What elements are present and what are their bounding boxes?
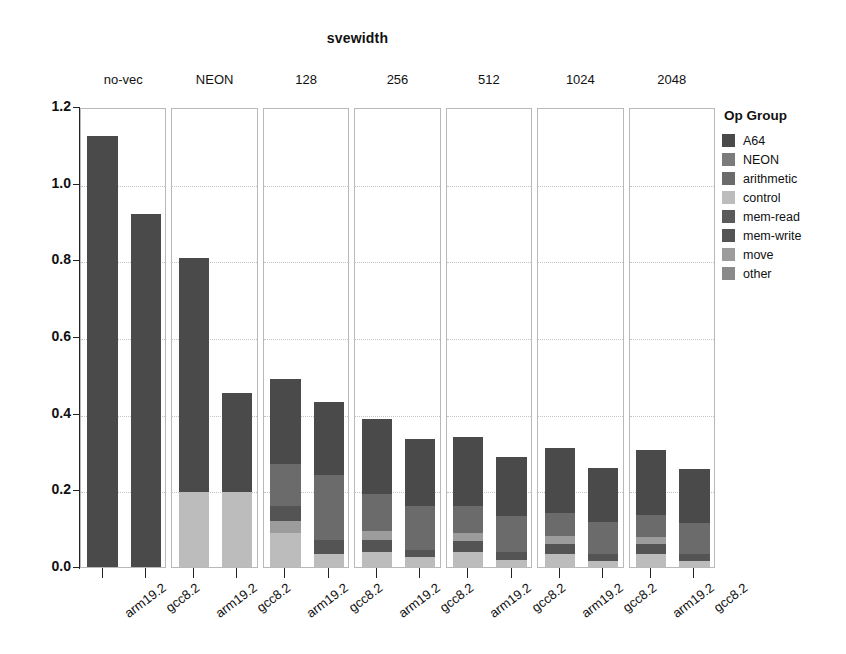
bar-segment[interactable] xyxy=(496,457,526,516)
bar-segment[interactable] xyxy=(453,437,483,506)
facet-panel xyxy=(446,108,532,568)
bar-segment[interactable] xyxy=(545,536,575,544)
bar-segment[interactable] xyxy=(679,554,709,561)
bar-segment[interactable] xyxy=(87,136,117,567)
bar-segment[interactable] xyxy=(362,494,392,530)
bar-segment[interactable] xyxy=(636,554,666,567)
y-tick-mark xyxy=(73,567,80,568)
legend-item[interactable]: control xyxy=(722,188,846,207)
stacked-bar[interactable] xyxy=(588,468,618,567)
bar-segment[interactable] xyxy=(405,557,435,567)
stacked-bar[interactable] xyxy=(131,214,161,567)
gridline xyxy=(538,416,622,417)
stacked-bar[interactable] xyxy=(362,419,392,567)
bar-segment[interactable] xyxy=(405,550,435,558)
bar-segment[interactable] xyxy=(588,522,618,555)
x-tick-label: arm19.2 xyxy=(121,580,168,621)
x-tick-label: gcc8.2 xyxy=(711,580,751,615)
legend-item[interactable]: mem-write xyxy=(722,226,846,245)
legend-item-label: NEON xyxy=(743,153,779,167)
bar-segment[interactable] xyxy=(453,533,483,541)
bar-segment[interactable] xyxy=(545,554,575,567)
bar-segment[interactable] xyxy=(270,379,300,463)
bar-segment[interactable] xyxy=(314,402,344,475)
bar-segment[interactable] xyxy=(270,506,300,521)
bar-segment[interactable] xyxy=(496,516,526,552)
bar-segment[interactable] xyxy=(588,554,618,561)
bar-segment[interactable] xyxy=(679,561,709,567)
facet-strip-label: NEON xyxy=(171,72,257,92)
bar-segment[interactable] xyxy=(679,469,709,523)
legend-item[interactable]: other xyxy=(722,264,846,283)
bar-segment[interactable] xyxy=(362,552,392,567)
bar-segment[interactable] xyxy=(131,214,161,567)
legend-item[interactable]: NEON xyxy=(722,150,846,169)
x-tick-mark xyxy=(467,568,468,578)
y-tick-label: 0.4 xyxy=(52,405,71,421)
facet-panel xyxy=(537,108,623,568)
bar-segment[interactable] xyxy=(362,531,392,541)
bar-segment[interactable] xyxy=(405,439,435,506)
bar-segment[interactable] xyxy=(545,544,575,554)
gridline xyxy=(630,262,714,263)
bar-segment[interactable] xyxy=(588,468,618,522)
legend-swatch-icon xyxy=(722,267,735,280)
legend-item-label: mem-write xyxy=(743,229,801,243)
gridline xyxy=(630,339,714,340)
bar-segment[interactable] xyxy=(545,448,575,513)
stacked-bar[interactable] xyxy=(405,439,435,567)
legend-swatch-icon xyxy=(722,172,735,185)
legend-item-label: mem-read xyxy=(743,210,800,224)
legend-item[interactable]: A64 xyxy=(722,131,846,150)
bar-segment[interactable] xyxy=(496,560,526,567)
bar-segment[interactable] xyxy=(314,540,344,553)
gridline xyxy=(264,186,348,187)
bar-segment[interactable] xyxy=(405,506,435,550)
bar-segment[interactable] xyxy=(636,544,666,554)
bar-segment[interactable] xyxy=(453,506,483,532)
bar-segment[interactable] xyxy=(270,464,300,506)
bar-segment[interactable] xyxy=(362,419,392,494)
bar-segment[interactable] xyxy=(496,552,526,560)
bar-segment[interactable] xyxy=(270,521,300,532)
bar-segment[interactable] xyxy=(453,552,483,567)
legend-item[interactable]: move xyxy=(722,245,846,264)
facet-panels: no-vecNEON12825651210242048 xyxy=(80,108,715,568)
bar-segment[interactable] xyxy=(362,540,392,551)
x-tick-mark xyxy=(145,568,146,578)
bar-segment[interactable] xyxy=(222,492,252,567)
y-tick-label: 0.8 xyxy=(52,251,71,267)
x-tick-mark xyxy=(650,568,651,578)
stacked-bar[interactable] xyxy=(179,258,209,567)
facet-strip-label: no-vec xyxy=(80,72,166,92)
stacked-bar[interactable] xyxy=(270,379,300,567)
bar-segment[interactable] xyxy=(636,515,666,537)
legend-item[interactable]: mem-read xyxy=(722,207,846,226)
bar-segment[interactable] xyxy=(222,393,252,493)
bar-segment[interactable] xyxy=(270,533,300,567)
bar-segment[interactable] xyxy=(179,258,209,492)
stacked-bar[interactable] xyxy=(496,457,526,567)
legend-item-label: A64 xyxy=(743,134,765,148)
x-tick-mark xyxy=(559,568,560,578)
stacked-bar[interactable] xyxy=(679,469,709,567)
gridline xyxy=(355,262,439,263)
bar-segment[interactable] xyxy=(588,561,618,567)
stacked-bar[interactable] xyxy=(314,402,344,567)
bar-segment[interactable] xyxy=(679,523,709,554)
legend-item-label: arithmetic xyxy=(743,172,797,186)
legend-item[interactable]: arithmetic xyxy=(722,169,846,188)
bar-segment[interactable] xyxy=(179,492,209,567)
bar-segment[interactable] xyxy=(636,450,666,515)
bar-segment[interactable] xyxy=(314,475,344,540)
stacked-bar[interactable] xyxy=(453,437,483,567)
stacked-bar[interactable] xyxy=(222,393,252,567)
stacked-bar[interactable] xyxy=(87,136,117,567)
stacked-bar[interactable] xyxy=(545,448,575,567)
bar-segment[interactable] xyxy=(453,541,483,552)
bar-segment[interactable] xyxy=(545,513,575,536)
stacked-bar[interactable] xyxy=(636,450,666,567)
bar-segment[interactable] xyxy=(314,554,344,567)
y-tick-label: 1.2 xyxy=(52,98,71,114)
bar-segment[interactable] xyxy=(636,537,666,544)
